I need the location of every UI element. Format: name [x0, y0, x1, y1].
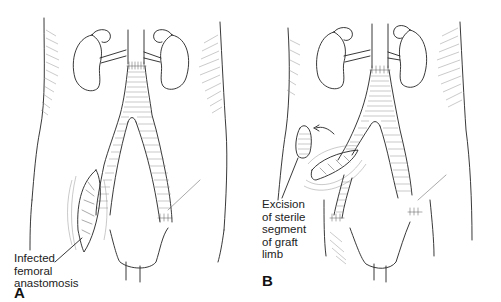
genital-outline: [126, 262, 140, 282]
panel-letter-b: B: [262, 272, 273, 289]
right-kidney: [399, 30, 426, 87]
groin-shading: [330, 232, 346, 264]
graft-bifurcation: [370, 122, 380, 127]
excision-wound: [311, 150, 358, 180]
left-kidney: [317, 32, 346, 89]
graft-corrugations: [97, 72, 171, 208]
right-femoral-anastomosis: [158, 214, 172, 221]
right-adrenal: [154, 30, 172, 43]
pubic-outline: [350, 222, 410, 268]
aorta: [128, 30, 144, 64]
graft-right-inner: [136, 122, 160, 222]
excised-graft-segment: [296, 126, 311, 158]
proximal-anastomosis: [370, 66, 390, 73]
panel-letter-a: A: [14, 284, 25, 301]
infected-wound: [78, 170, 101, 252]
left-renal-vessel: [100, 50, 126, 63]
left-adrenal: [92, 30, 110, 43]
torso-right-outline: [220, 22, 227, 230]
label-line: of sterile: [262, 211, 306, 224]
label-line: of graft: [262, 236, 306, 249]
right-suture-line: [418, 175, 446, 200]
graft-bifurcation: [128, 118, 136, 123]
right-flank-shading: [437, 28, 462, 107]
label-excision-of-sterile-segment: Excision of sterile segment of graft lim…: [262, 198, 306, 261]
wound-detail: [82, 182, 94, 234]
left-thigh-outline: [30, 200, 32, 250]
right-renal-vessel: [388, 52, 400, 60]
panel-a: Infected femoral anastomosis A: [0, 0, 250, 302]
label-leader-b: [282, 158, 298, 198]
label-line: Excision: [262, 198, 306, 211]
graft-right-inner: [380, 126, 398, 198]
right-femoral-anastomosis: [408, 208, 422, 215]
left-thigh-inner: [324, 200, 326, 256]
right-kidney: [161, 35, 189, 89]
graft-corrugations: [346, 76, 412, 191]
proximal-anastomosis: [127, 62, 146, 69]
right-flank-shading: [199, 35, 222, 113]
left-kidney: [73, 35, 101, 91]
torso-left-outline: [32, 18, 44, 200]
panel-b: Excision of sterile segment of graft lim…: [250, 0, 500, 302]
label-line: segment: [262, 223, 306, 236]
torso-left-outline: [278, 28, 289, 200]
label-line: Infected: [14, 252, 79, 265]
right-renal-vessel: [144, 52, 161, 62]
excised-segment-corrugations: [298, 134, 311, 154]
label-line: femoral: [14, 265, 79, 278]
right-thigh-inner: [430, 200, 434, 256]
label-line: limb: [262, 248, 306, 261]
aorta: [372, 24, 388, 68]
genital-outline: [374, 264, 386, 282]
right-thigh-outline: [218, 230, 224, 262]
pubic-outline: [110, 228, 168, 268]
graft-left-inner: [110, 122, 128, 215]
right-suture-line: [168, 180, 200, 210]
left-renal-vessel: [344, 50, 370, 62]
torso-right-outline: [460, 22, 472, 240]
surgical-illustration: Infected femoral anastomosis A: [0, 0, 501, 302]
